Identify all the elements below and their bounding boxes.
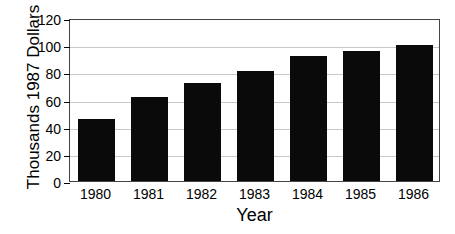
bar [184, 83, 220, 181]
x-tick-label: 1982 [186, 186, 217, 202]
x-tick-label: 1980 [80, 186, 111, 202]
y-tick-label: 80 [45, 66, 61, 82]
y-tick-mark [64, 74, 70, 75]
x-tick-label: 1983 [239, 186, 270, 202]
bar [78, 119, 114, 181]
bar [396, 45, 432, 181]
y-tick-mark [64, 156, 70, 157]
bar [237, 71, 273, 181]
x-tick-label: 1985 [345, 186, 376, 202]
x-tick-label: 1981 [133, 186, 164, 202]
y-tick-label: 40 [45, 121, 61, 137]
bar [343, 51, 379, 181]
y-tick-mark [64, 102, 70, 103]
y-tick-label: 0 [53, 175, 61, 191]
y-tick-mark [64, 129, 70, 130]
x-tick-label: 1986 [398, 186, 429, 202]
bar-chart-figure: Thousands 1987 Dollars 020406080100120 1… [0, 0, 455, 234]
y-tick-mark [64, 20, 70, 21]
bar [290, 56, 326, 181]
y-tick-label: 60 [45, 94, 61, 110]
y-tick-label: 100 [38, 39, 61, 55]
bar [131, 97, 167, 181]
y-tick-label: 120 [38, 12, 61, 28]
plot-area: 020406080100120 [69, 19, 440, 182]
x-tick-label: 1984 [292, 186, 323, 202]
x-axis-title: Year [69, 205, 440, 226]
y-tick-mark [64, 183, 70, 184]
y-axis-title: Thousands 1987 Dollars [23, 0, 45, 197]
y-tick-mark [64, 47, 70, 48]
y-tick-label: 20 [45, 148, 61, 164]
gridline [70, 47, 439, 48]
